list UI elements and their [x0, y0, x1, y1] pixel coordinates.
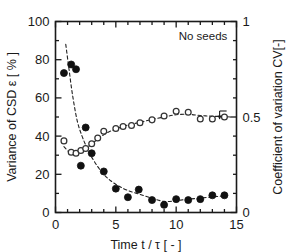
data-point-open: [197, 116, 203, 122]
figure-container: 05101502040608010000.51No seedsTime t / …: [0, 0, 294, 252]
y-left-tick-label: 0: [42, 205, 49, 220]
data-point-open: [161, 113, 167, 119]
data-point-filled: [124, 194, 131, 201]
data-point-filled: [60, 70, 67, 77]
data-point-filled: [112, 185, 119, 192]
data-point-filled: [209, 192, 216, 199]
y-right-tick-label: 0: [243, 205, 250, 220]
data-point-filled: [135, 186, 142, 193]
y-left-tick-label: 20: [35, 167, 49, 182]
fit-curve-cv-fit: [64, 114, 232, 153]
x-tick-label: 5: [112, 217, 119, 232]
data-point-open: [222, 114, 228, 120]
x-tick-label: 0: [52, 217, 59, 232]
data-point-open: [113, 126, 119, 132]
y-right-tick-label: 1: [243, 14, 250, 29]
data-point-filled: [100, 168, 107, 175]
plot-frame: [56, 22, 237, 213]
y-left-tick-label: 80: [35, 52, 49, 67]
y-left-tick-label: 60: [35, 90, 49, 105]
data-point-open: [61, 138, 67, 144]
y-left-axis-title: Variance of CSD ε [ % ]: [5, 52, 19, 182]
x-axis-title: Time t / τ [ - ]: [110, 238, 181, 252]
data-point-open: [120, 124, 126, 130]
annotation-no-seeds: No seeds: [179, 30, 228, 42]
data-point-filled: [185, 197, 192, 204]
data-point-open: [173, 108, 179, 114]
y-right-axis-title: Coefficient of variation CV[-]: [271, 39, 285, 194]
data-point-filled: [173, 196, 180, 203]
series-variance: [60, 61, 227, 208]
data-point-filled: [161, 201, 168, 208]
data-point-filled: [197, 196, 204, 203]
data-point-filled: [77, 162, 84, 169]
data-point-open: [95, 135, 101, 141]
data-point-open: [83, 146, 89, 152]
data-point-open: [101, 128, 107, 134]
series-cv: [61, 108, 227, 156]
data-point-filled: [88, 150, 95, 157]
data-point-filled: [73, 66, 80, 73]
data-point-open: [149, 117, 155, 123]
y-left-tick-label: 100: [28, 14, 50, 29]
fit-curve-variance-fit: [66, 44, 225, 201]
data-point-open: [129, 123, 135, 129]
data-point-filled: [149, 197, 156, 204]
y-right-tick-label: 0.5: [243, 110, 261, 125]
data-point-open: [209, 116, 215, 122]
data-point-open: [89, 141, 95, 147]
x-tick-label: 10: [169, 217, 183, 232]
data-point-open: [185, 109, 191, 115]
data-point-filled: [82, 124, 89, 131]
data-point-filled: [221, 192, 228, 199]
chart-canvas: 05101502040608010000.51No seedsTime t / …: [0, 0, 294, 252]
y-left-tick-label: 40: [35, 129, 49, 144]
data-point-open: [137, 120, 143, 126]
